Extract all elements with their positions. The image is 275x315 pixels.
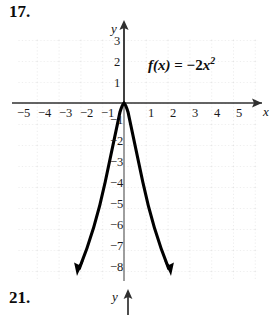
x-tick-label-4: 4 xyxy=(214,107,220,120)
x-axis-label: x xyxy=(263,105,269,118)
exponent: 2 xyxy=(210,55,215,66)
figure-container: 17. xyxy=(0,0,275,315)
x-tick-label-3: 3 xyxy=(192,107,198,120)
x-tick-label-neg5: −5 xyxy=(17,107,30,120)
y-tick-label-neg5: −5 xyxy=(110,198,123,211)
y-tick-label-neg8: −8 xyxy=(110,261,123,274)
y-tick-label-neg4: −4 xyxy=(110,177,123,190)
x-tick-label-neg2: −2 xyxy=(80,107,93,120)
y-tick-label-neg1: −1 xyxy=(110,114,123,127)
minus-sign: − xyxy=(187,57,196,73)
y-tick-label-2: 2 xyxy=(114,56,120,69)
next-figure-y-axis-label: y xyxy=(112,290,118,303)
x-tick-label-neg3: −3 xyxy=(59,107,72,120)
coefficient: 2 xyxy=(195,57,203,73)
y-tick-label-neg6: −6 xyxy=(110,219,123,232)
y-tick-label-3: 3 xyxy=(114,35,120,48)
y-tick-label-neg3: −3 xyxy=(110,156,123,169)
coordinate-plane-svg xyxy=(0,0,275,285)
y-tick-label-neg7: −7 xyxy=(110,240,123,253)
y-tick-label-1: 1 xyxy=(114,77,120,90)
problem-number-21: 21. xyxy=(9,288,30,308)
equals-sign: = xyxy=(174,57,183,73)
y-tick-label-neg2: −2 xyxy=(110,135,123,148)
graph-plot-area: y x −5 −4 −3 −2 −1 1 2 3 4 5 3 2 1 −1 −2… xyxy=(0,0,275,285)
next-figure-stub xyxy=(0,283,275,315)
function-notation: f(x) xyxy=(148,57,171,73)
x-tick-label-neg4: −4 xyxy=(38,107,51,120)
x-tick-label-2: 2 xyxy=(170,107,176,120)
x-tick-label-1: 1 xyxy=(148,107,154,120)
x-tick-label-5: 5 xyxy=(236,107,242,120)
variable-x: x xyxy=(203,57,211,73)
function-equation-label: f(x) = −2x2 xyxy=(148,56,215,73)
next-figure-axis-svg xyxy=(0,283,275,315)
